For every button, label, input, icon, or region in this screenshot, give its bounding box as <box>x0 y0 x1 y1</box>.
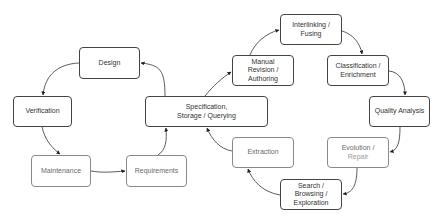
node-label-line: Manual <box>248 58 279 67</box>
node-label-line: Repair <box>342 153 375 162</box>
node-label: Extraction <box>247 148 278 157</box>
node-extraction: Extraction <box>232 137 294 168</box>
node-label-line: Fusing <box>292 30 330 39</box>
edge-extraction-to-specification <box>207 128 232 151</box>
node-search: Search /Browsing /Exploration <box>280 179 342 210</box>
edge-design-to-verification <box>43 63 79 95</box>
node-label-line: Enrichment <box>335 71 380 80</box>
node-label-line: Design <box>99 59 121 68</box>
edge-specification-to-design <box>141 63 165 96</box>
node-label-line: Quality Analysis <box>375 107 424 116</box>
node-maintenance: Maintenance <box>31 155 91 187</box>
node-label: Quality Analysis <box>375 107 424 116</box>
node-label-line: Authoring <box>248 75 279 84</box>
node-label: Search /Browsing /Exploration <box>293 182 328 208</box>
node-label-line: Maintenance <box>41 167 81 176</box>
node-label-line: Extraction <box>247 148 278 157</box>
edge-manual-revision-to-interlinking <box>250 30 279 55</box>
node-label-line: Classification / <box>335 62 380 71</box>
edge-specification-to-manual-revision <box>205 72 231 96</box>
node-quality-analysis: Quality Analysis <box>369 96 430 127</box>
node-classification: Classification /Enrichment <box>327 55 389 86</box>
node-label-line: Requirements <box>135 167 179 176</box>
node-label: Interlinking /Fusing <box>292 21 330 38</box>
node-label-line: Specification, <box>177 103 236 112</box>
edge-classification-to-quality-analysis <box>389 71 405 95</box>
edge-quality-analysis-to-evolution <box>390 127 400 152</box>
node-interlinking: Interlinking /Fusing <box>280 14 342 45</box>
node-label-line: Browsing / <box>293 190 328 199</box>
node-label-line: Exploration <box>293 199 328 208</box>
node-label: Maintenance <box>41 167 81 176</box>
node-label: Classification /Enrichment <box>335 62 380 79</box>
edge-verification-to-maintenance <box>42 127 60 154</box>
node-label: ManualRevision /Authoring <box>248 58 279 84</box>
node-requirements: Requirements <box>126 155 187 187</box>
node-label: Requirements <box>135 167 179 176</box>
node-label: Verification <box>25 107 59 116</box>
node-specification: Specification,Storage / Querying <box>145 96 268 127</box>
node-design: Design <box>79 47 140 79</box>
edge-interlinking-to-classification <box>342 31 362 54</box>
edge-search-to-extraction <box>248 169 280 195</box>
edge-evolution-to-search <box>343 168 357 194</box>
node-label: Design <box>99 59 121 68</box>
node-label-line: Interlinking / <box>292 21 330 30</box>
node-verification: Verification <box>13 96 72 127</box>
node-label-line: Verification <box>25 107 59 116</box>
node-label-line: Search / <box>293 182 328 191</box>
node-label-line: Revision / <box>248 66 279 75</box>
node-evolution: Evolution /Repair <box>327 137 389 168</box>
edge-requirements-to-specification <box>158 128 166 155</box>
node-label-line: Storage / Querying <box>177 112 236 121</box>
node-label: Evolution /Repair <box>342 144 375 161</box>
edge-maintenance-to-requirements <box>91 171 125 172</box>
node-manual-revision: ManualRevision /Authoring <box>232 55 294 86</box>
node-label-line: Evolution / <box>342 144 375 153</box>
node-label: Specification,Storage / Querying <box>177 103 236 120</box>
lifecycle-diagram: DesignVerificationMaintenanceRequirement… <box>0 0 440 218</box>
